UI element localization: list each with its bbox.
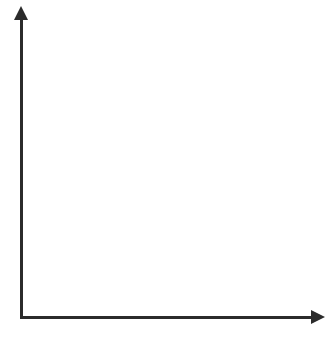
x-axis-arrow-icon — [311, 310, 325, 324]
y-axis-arrow-icon — [14, 6, 28, 20]
x-axis-line — [20, 316, 314, 319]
y-axis-line — [20, 18, 23, 318]
coordinate-grid-screenshot — [0, 0, 331, 338]
